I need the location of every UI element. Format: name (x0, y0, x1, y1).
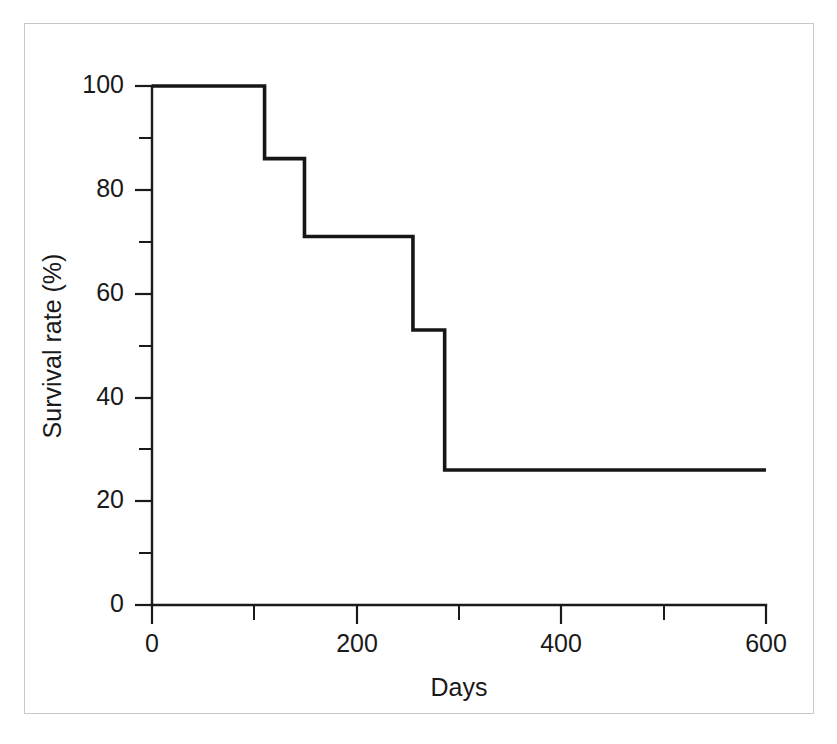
y-tick-label-80: 80 (96, 174, 124, 202)
y-tick-label-20: 20 (96, 485, 124, 513)
chart-page: 100 80 60 40 20 0 0 200 400 600 Days Sur… (0, 0, 837, 744)
x-tick-label-600: 600 (745, 629, 787, 657)
survival-step-line (152, 86, 766, 470)
y-tick-label-60: 60 (96, 278, 124, 306)
axes-group (152, 86, 766, 605)
y-tick-label-100: 100 (82, 70, 124, 98)
y-axis-title: Survival rate (%) (38, 254, 66, 439)
y-tick-label-0: 0 (110, 589, 124, 617)
x-axis-minor-ticks (254, 605, 664, 620)
x-axis-title: Days (431, 673, 488, 701)
y-axis-tick-labels: 100 80 60 40 20 0 (82, 70, 124, 617)
y-axis-minor-ticks (139, 138, 152, 553)
x-tick-label-400: 400 (540, 629, 582, 657)
x-tick-label-200: 200 (336, 629, 378, 657)
y-tick-label-40: 40 (96, 382, 124, 410)
survival-curve-plot: 100 80 60 40 20 0 0 200 400 600 Days Sur… (25, 24, 813, 713)
x-tick-label-0: 0 (145, 629, 159, 657)
figure-frame: 100 80 60 40 20 0 0 200 400 600 Days Sur… (24, 23, 814, 714)
x-axis-tick-labels: 0 200 400 600 (145, 629, 787, 657)
